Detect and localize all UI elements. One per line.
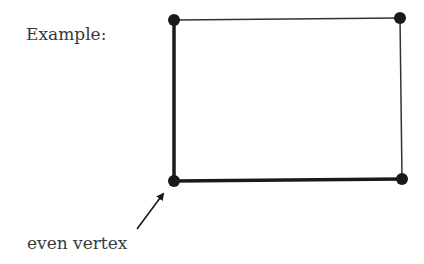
annotation-arrow-icon xyxy=(137,194,163,229)
even-vertex-label: even vertex xyxy=(27,233,127,253)
vertex-bottom-left xyxy=(168,175,180,187)
edge-right xyxy=(400,18,402,179)
vertex-top-left xyxy=(168,14,180,26)
edge-top xyxy=(174,18,400,20)
vertex-top-right xyxy=(394,12,406,24)
vertex-bottom-right xyxy=(396,173,408,185)
graph-diagram xyxy=(0,0,424,264)
edge-bottom xyxy=(174,179,402,181)
